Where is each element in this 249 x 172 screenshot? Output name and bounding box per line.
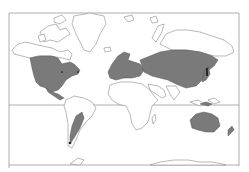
antarctica [70, 158, 84, 165]
greenland [72, 13, 106, 52]
range-australia [190, 112, 220, 132]
land-outlines [12, 13, 234, 165]
range-north-america [30, 56, 80, 92]
world-map [0, 0, 249, 172]
range-new-zealand [228, 126, 234, 136]
range-europe [108, 52, 144, 80]
world-map-svg [0, 0, 249, 172]
